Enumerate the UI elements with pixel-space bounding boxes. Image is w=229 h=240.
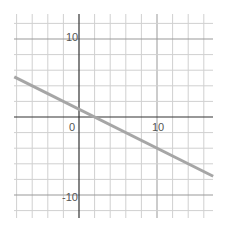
x-tick-10: 10	[152, 121, 164, 133]
y-tick-neg10: -10	[62, 191, 78, 203]
data-line	[14, 77, 213, 176]
coordinate-plane: 0 10 10 -10	[0, 0, 229, 240]
origin-label: 0	[69, 121, 75, 133]
grid-lines	[14, 14, 213, 218]
y-tick-10: 10	[66, 31, 78, 43]
